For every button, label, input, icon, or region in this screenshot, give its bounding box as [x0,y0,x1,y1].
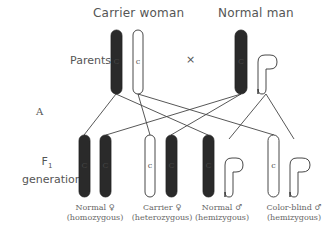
svg-text:C: C [81,161,87,170]
chromosome-graphic: c C C C C c C C c [0,0,335,230]
offspring-colorblind-male: c [268,135,310,197]
inheritance-lines [84,94,294,139]
svg-text:c: c [136,57,141,66]
caption-carrier-female: Carrier ♀ (heterozygous) [130,203,194,223]
svg-text:c: c [148,161,153,170]
svg-text:c: c [271,161,276,170]
offspring-normal-female: C C [79,135,111,197]
caption-normal-female: Normal ♀ (homozygous) [66,203,124,223]
svg-text:C: C [168,161,174,170]
father-chromosomes: C [235,30,277,94]
caption-sublabel: (hemizygous) [262,213,326,223]
svg-text:C: C [238,57,244,66]
caption-sublabel: (heterozygous) [130,213,194,223]
offspring-carrier-female: c C [145,135,177,197]
caption-label: Color-blind ♂ [262,203,326,213]
caption-label: Normal ♀ [66,203,124,213]
caption-sublabel: (homozygous) [66,213,124,223]
y-chromosome [258,55,277,94]
caption-sublabel: (hemizygous) [192,213,252,223]
mother-chromosomes: c C [111,30,143,94]
caption-label: Carrier ♀ [130,203,194,213]
svg-text:C: C [113,57,119,66]
caption-colorblind-male: Color-blind ♂ (hemizygous) [262,203,326,223]
svg-text:C: C [102,161,108,170]
caption-normal-male: Normal ♂ (hemizygous) [192,203,252,223]
svg-text:C: C [205,161,211,170]
caption-label: Normal ♂ [192,203,252,213]
offspring-normal-male: C [203,135,243,197]
